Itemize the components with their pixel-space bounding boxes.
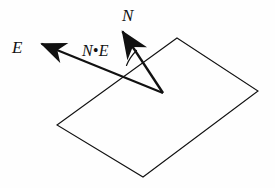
figure-canvas: N E N•E bbox=[0, 0, 275, 188]
angle-arc-icon bbox=[127, 51, 137, 66]
eye-vector-label: E bbox=[12, 39, 22, 56]
vector-diagram-svg bbox=[0, 0, 275, 188]
dot-product-label: N•E bbox=[82, 43, 109, 59]
normal-vector-label: N bbox=[122, 7, 133, 24]
